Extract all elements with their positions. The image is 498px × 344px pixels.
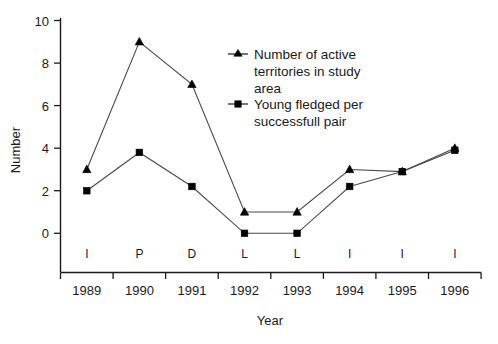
x-tick-label: 1995 [388,283,417,298]
category-code: I [453,247,456,261]
category-code: L [294,247,301,261]
category-code: I [85,247,88,261]
x-tick-label: 1994 [335,283,364,298]
square-marker [399,168,406,175]
category-code: P [135,247,143,261]
square-marker-icon [235,101,241,107]
x-tick-label: 1989 [72,283,101,298]
y-tick-label: 2 [42,184,49,199]
square-marker [136,149,143,156]
square-marker [294,230,301,237]
x-tick-label: 1992 [230,283,259,298]
legend-label-line: successfull pair [254,114,347,129]
square-marker [346,183,353,190]
x-axis-title: Year [257,313,284,328]
legend-label-line: territories in study [254,64,361,79]
category-code: L [241,247,248,261]
category-code: I [348,247,351,261]
y-tick-label: 8 [42,56,49,71]
square-marker [189,183,196,190]
x-tick-label: 1990 [125,283,154,298]
chart-figure: 10 8 6 4 2 0 Number 1989 1990 1991 1992 [0,0,498,344]
line-chart: 10 8 6 4 2 0 Number 1989 1990 1991 1992 [0,0,498,344]
category-code: D [188,247,197,261]
category-code: I [401,247,404,261]
square-marker [452,147,459,154]
x-tick-label: 1993 [283,283,312,298]
square-marker [241,230,248,237]
x-tick-label: 1996 [440,283,469,298]
y-tick-label: 6 [42,99,49,114]
legend-label-line: area [254,81,282,96]
y-tick-label: 4 [42,141,49,156]
y-axis-title: Number [8,126,23,173]
y-tick-label: 10 [35,14,49,29]
legend-label-line: Young fledged per [254,97,364,112]
square-marker [83,187,90,194]
x-tick-label: 1991 [177,283,206,298]
legend-label-line: Number of active [254,47,356,62]
y-tick-label: 0 [42,226,49,241]
